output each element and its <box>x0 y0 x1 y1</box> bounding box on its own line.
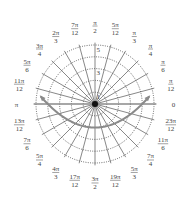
angle-label: 0 <box>172 101 176 109</box>
svg-text:12: 12 <box>71 29 79 37</box>
svg-text:19π: 19π <box>110 173 121 181</box>
svg-text:12: 12 <box>112 29 120 37</box>
angle-label: 7π4 <box>147 152 155 168</box>
angle-label: 5π12 <box>112 21 120 37</box>
origin-dot <box>92 101 98 107</box>
angle-label: 7π12 <box>71 21 79 37</box>
svg-text:11π: 11π <box>14 77 25 85</box>
svg-text:7π: 7π <box>71 21 79 29</box>
svg-text:4: 4 <box>149 160 153 168</box>
angle-label: 11π12 <box>14 77 25 93</box>
angle-label: π <box>15 101 19 109</box>
angle-label: π3 <box>132 29 137 45</box>
svg-text:4: 4 <box>38 160 42 168</box>
svg-text:π: π <box>169 77 173 85</box>
svg-text:2: 2 <box>93 27 97 35</box>
svg-text:π: π <box>132 29 136 37</box>
svg-text:4π: 4π <box>52 165 60 173</box>
svg-text:3: 3 <box>132 37 136 45</box>
angle-label: 7π6 <box>24 136 32 152</box>
svg-text:3π: 3π <box>91 175 99 183</box>
angle-label: 5π6 <box>24 58 32 74</box>
svg-text:12: 12 <box>167 125 175 133</box>
svg-text:5π: 5π <box>24 58 32 66</box>
svg-text:6: 6 <box>25 144 29 152</box>
svg-text:π: π <box>15 101 19 109</box>
radial-tick-labels: 135 <box>97 46 101 101</box>
angle-label: 2π3 <box>52 29 60 45</box>
angle-label: 11π6 <box>158 136 169 152</box>
angle-label: 13π12 <box>14 117 25 133</box>
radial-tick-label: 5 <box>97 46 101 54</box>
polar-chart: 135 0π12π6π4π35π12π27π122π33π45π611π12π1… <box>0 0 183 203</box>
grid-ray <box>79 104 95 163</box>
svg-text:6: 6 <box>161 144 165 152</box>
svg-text:0: 0 <box>172 101 176 109</box>
svg-text:2: 2 <box>93 183 97 191</box>
svg-text:12: 12 <box>167 85 175 93</box>
angle-label: 19π12 <box>110 173 121 189</box>
svg-text:4: 4 <box>149 50 153 58</box>
angle-label: 4π3 <box>52 165 60 181</box>
svg-text:4: 4 <box>38 50 42 58</box>
angle-label: 3π4 <box>36 42 44 58</box>
svg-text:6: 6 <box>161 66 165 74</box>
svg-text:3: 3 <box>54 37 58 45</box>
svg-text:12: 12 <box>16 125 24 133</box>
angle-label: π2 <box>93 19 98 35</box>
svg-text:12: 12 <box>16 85 24 93</box>
angle-label: 5π3 <box>131 165 139 181</box>
svg-text:6: 6 <box>25 66 29 74</box>
svg-text:π: π <box>161 58 165 66</box>
svg-text:5π: 5π <box>36 152 44 160</box>
angle-label: 3π2 <box>91 175 99 191</box>
svg-text:2π: 2π <box>52 29 60 37</box>
svg-text:7π: 7π <box>147 152 155 160</box>
angle-label: π6 <box>160 58 165 74</box>
svg-text:12: 12 <box>71 181 79 189</box>
radial-tick-label: 3 <box>97 69 101 77</box>
svg-text:3: 3 <box>132 173 136 181</box>
svg-text:π: π <box>93 19 97 27</box>
svg-text:11π: 11π <box>158 136 169 144</box>
svg-text:5π: 5π <box>112 21 120 29</box>
angle-label: π12 <box>167 77 175 93</box>
radial-tick-label: 1 <box>97 93 101 101</box>
svg-text:12: 12 <box>112 181 120 189</box>
svg-text:7π: 7π <box>24 136 32 144</box>
origin-marker <box>92 101 98 107</box>
svg-text:23π: 23π <box>166 117 177 125</box>
angle-label: 23π12 <box>166 117 177 133</box>
angle-label: π4 <box>148 42 153 58</box>
angle-label: 5π4 <box>36 152 44 168</box>
svg-text:5π: 5π <box>131 165 139 173</box>
svg-text:π: π <box>149 42 153 50</box>
svg-text:13π: 13π <box>14 117 25 125</box>
angle-label: 17π12 <box>69 173 80 189</box>
svg-text:17π: 17π <box>69 173 80 181</box>
svg-text:3π: 3π <box>36 42 44 50</box>
svg-text:3: 3 <box>54 173 58 181</box>
